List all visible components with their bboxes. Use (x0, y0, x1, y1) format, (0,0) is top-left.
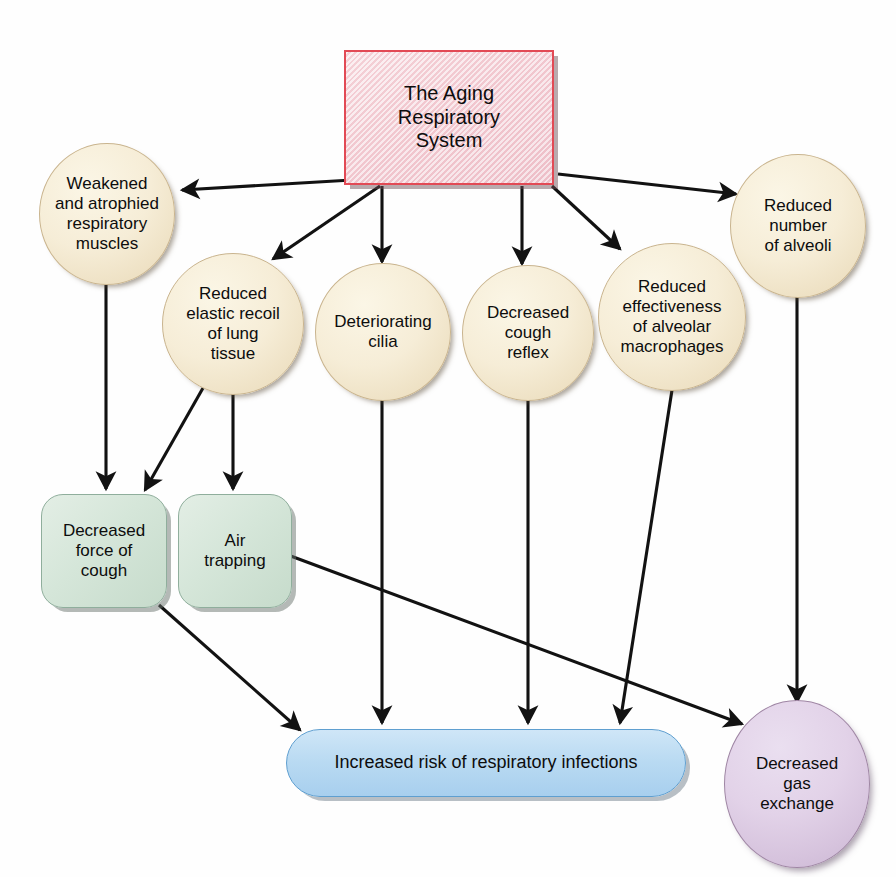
node-decreased-force-of-cough[interactable]: Decreased force of cough (41, 494, 167, 608)
edge-root-muscles (182, 180, 352, 190)
node-decreased-cough-reflex[interactable]: Decreased cough reflex (462, 265, 594, 401)
node-label: Air trapping (200, 531, 269, 571)
node-label: Decreased gas exchange (752, 754, 842, 814)
node-aging-respiratory-system[interactable]: The Aging Respiratory System (344, 50, 554, 185)
node-label: Reduced effectiveness of alveolar macrop… (616, 277, 727, 357)
node-decreased-gas-exchange[interactable]: Decreased gas exchange (724, 700, 870, 868)
node-label: The Aging Respiratory System (394, 82, 504, 153)
node-reduced-elastic-recoil-of-lung-tissue[interactable]: Reduced elastic recoil of lung tissue (162, 253, 304, 395)
edge-root-alveoli (558, 174, 736, 194)
node-label: Weakened and atrophied respiratory muscl… (51, 174, 163, 254)
edge-root-recoil (273, 186, 380, 259)
node-label: Deteriorating cilia (330, 312, 435, 352)
edge-airtrap-gas (288, 555, 742, 724)
node-label: Reduced number of alveoli (760, 196, 836, 256)
node-label: Increased risk of respiratory infections (330, 752, 641, 773)
node-weakened-atrophied-respiratory-muscles[interactable]: Weakened and atrophied respiratory muscl… (39, 143, 175, 285)
node-increased-risk-of-respiratory-infections[interactable]: Increased risk of respiratory infections (286, 729, 686, 797)
edge-root-macrophages (552, 186, 620, 249)
node-air-trapping[interactable]: Air trapping (178, 494, 292, 608)
edge-macrophages-infections (620, 390, 672, 723)
edge-recoil-force (145, 388, 203, 490)
node-reduced-number-of-alveoli[interactable]: Reduced number of alveoli (730, 154, 866, 298)
diagram-canvas: The Aging Respiratory System Weakened an… (0, 0, 896, 877)
node-label: Decreased cough reflex (483, 303, 573, 363)
node-label: Decreased force of cough (59, 521, 149, 581)
node-reduced-effectiveness-of-alveolar-macrophages[interactable]: Reduced effectiveness of alveolar macrop… (598, 243, 746, 391)
node-deteriorating-cilia[interactable]: Deteriorating cilia (315, 263, 451, 401)
node-label: Reduced elastic recoil of lung tissue (182, 284, 284, 364)
edge-force-infections (159, 605, 300, 730)
